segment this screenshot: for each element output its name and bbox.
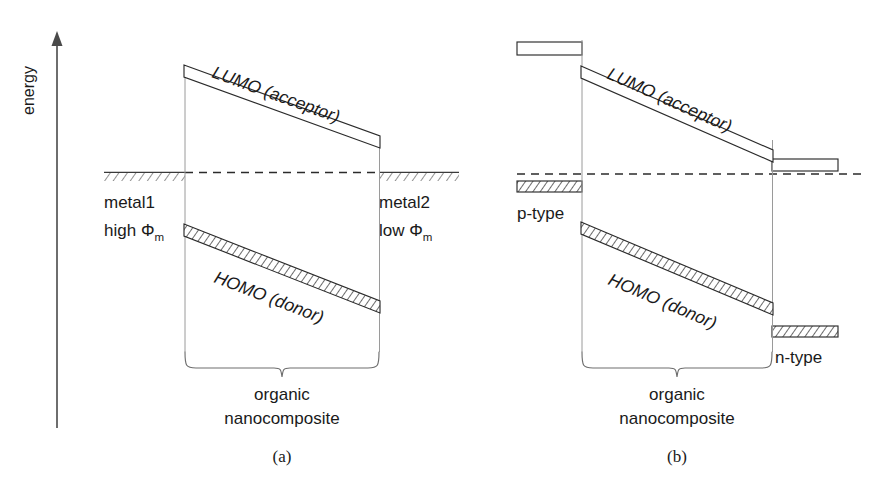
figure-root: energy metal1 high Φm metal2 low Φm <box>0 0 869 491</box>
panel-a: metal1 high Φm metal2 low Φm LU <box>104 62 459 466</box>
metal2-wf-symbol: Φ <box>409 221 423 240</box>
metal1-label: metal1 <box>104 193 155 212</box>
n-type-valence-level <box>772 326 838 337</box>
panel-b-lumo-label: LUMO (acceptor) <box>604 63 735 136</box>
panel-a-brace-label-line2: nanocomposite <box>224 409 339 428</box>
p-type-label: p-type <box>517 204 564 223</box>
panel-b-brace-label-line1: organic <box>649 385 705 404</box>
metal2-wf-subscript: m <box>423 231 433 243</box>
panel-b-brace-label-line2: nanocomposite <box>619 409 734 428</box>
metal2-hatch <box>379 173 459 181</box>
metal2-wf-prefix: low <box>379 221 409 240</box>
panel-a-right-electrode: metal2 low Φm <box>379 173 459 244</box>
energy-axis: energy <box>20 31 63 428</box>
metal2-workfunction-label: low Φm <box>379 221 432 243</box>
band-diagram-svg: energy metal1 high Φm metal2 low Φm <box>0 0 869 491</box>
metal2-label: metal2 <box>379 193 430 212</box>
panel-a-brace-label-line1: organic <box>254 385 310 404</box>
energy-axis-label: energy <box>20 66 37 115</box>
panel-a-brace <box>185 352 379 377</box>
metal1-workfunction-label: high Φm <box>104 221 164 243</box>
panel-a-lumo-label: LUMO (acceptor) <box>210 62 343 127</box>
metal1-hatch <box>104 173 185 181</box>
n-type-label: n-type <box>775 348 822 367</box>
n-type-conduction-level <box>772 159 838 171</box>
p-type-conduction-level <box>517 42 582 55</box>
metal1-wf-subscript: m <box>154 231 164 243</box>
p-type-valence-level <box>517 181 582 192</box>
panel-a-caption: (a) <box>273 447 292 466</box>
panel-a-left-electrode: metal1 high Φm <box>104 173 185 244</box>
panel-b-brace <box>582 352 772 377</box>
energy-arrowhead <box>52 31 63 46</box>
metal1-wf-symbol: Φ <box>141 221 155 240</box>
panel-b-caption: (b) <box>667 447 687 466</box>
metal1-wf-prefix: high <box>104 221 141 240</box>
panel-b: p-type n-type LUMO (acceptor) HOMO (dono… <box>517 40 866 466</box>
